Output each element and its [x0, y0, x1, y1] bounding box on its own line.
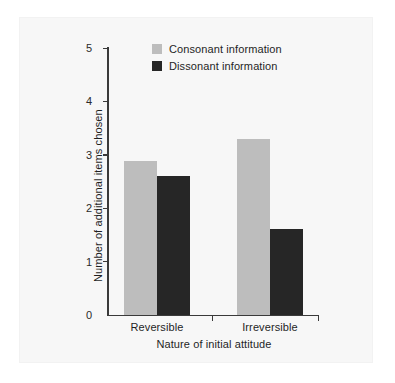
y-axis-title: Number of additional items chosen [92, 109, 104, 282]
x-tick-end [318, 316, 319, 321]
legend-item-dissonant: Dissonant information [152, 58, 282, 74]
figure: 5 4 3 2 1 0 Reversible Irreversible Numb… [0, 0, 395, 383]
x-axis-title: Nature of initial attitude [108, 338, 320, 350]
legend-swatch-consonant-icon [152, 44, 162, 54]
x-tick-separator [212, 316, 213, 321]
y-tick-label-4: 4 [86, 96, 92, 107]
bar-consonant-reversible [124, 161, 157, 315]
legend-label-dissonant: Dissonant information [169, 61, 278, 72]
y-tick-4 [103, 101, 108, 102]
bar-consonant-irreversible [237, 139, 270, 315]
plot-area: 5 4 3 2 1 0 Reversible Irreversible Numb… [0, 0, 395, 383]
legend-item-consonant: Consonant information [152, 41, 282, 57]
bar-dissonant-reversible [157, 176, 190, 315]
legend-swatch-dissonant-icon [152, 61, 162, 71]
y-axis-line [107, 47, 109, 316]
x-category-label-irreversible: Irreversible [242, 321, 298, 333]
y-tick-label-0: 0 [86, 310, 92, 321]
y-tick-label-5: 5 [86, 43, 92, 54]
x-category-label-reversible: Reversible [131, 321, 184, 333]
y-tick-5 [103, 48, 108, 49]
legend-label-consonant: Consonant information [169, 44, 282, 55]
bar-dissonant-irreversible [270, 229, 303, 315]
legend: Consonant information Dissonant informat… [152, 41, 282, 75]
